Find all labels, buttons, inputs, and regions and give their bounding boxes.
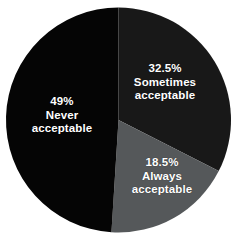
pie-slice-never[interactable] bbox=[6, 7, 119, 232]
pie-slices bbox=[6, 7, 231, 232]
pie-chart-svg bbox=[0, 0, 244, 243]
pie-chart: 32.5% Sometimes acceptable 49% Never acc… bbox=[0, 0, 244, 243]
